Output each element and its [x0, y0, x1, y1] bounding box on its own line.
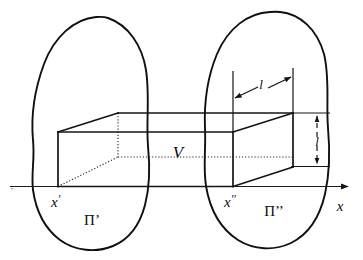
right-plane-prime: ’’: [275, 203, 284, 219]
left-station-prime: ′: [58, 192, 61, 206]
canvas-background: [0, 0, 363, 260]
left-plane-base: Π: [84, 212, 95, 228]
dim-v-label: l: [315, 134, 319, 149]
x-axis-label: x: [336, 198, 344, 214]
right-station-prime: ′′: [231, 192, 237, 206]
axis-origin-dot: [11, 188, 12, 189]
dim-h-label: l: [259, 77, 263, 92]
right-plane-base: Π: [264, 203, 275, 219]
diagram-canvas: l l V x′ x′′ Π’ Π’’ x: [0, 0, 363, 260]
right-plane-label: Π’’: [264, 203, 284, 219]
left-plane-label: Π’: [84, 212, 100, 228]
figure-root: l l V x′ x′′ Π’ Π’’ x: [0, 0, 363, 260]
left-plane-prime: ’: [95, 212, 100, 228]
